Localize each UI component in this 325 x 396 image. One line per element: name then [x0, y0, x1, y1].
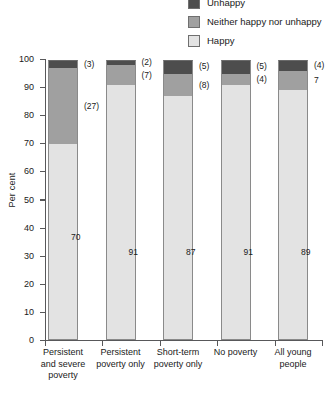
bar-segment-happy: [106, 85, 136, 341]
y-tick-label-10: 10: [0, 308, 34, 317]
bar-value-unhappy-3: (5): [199, 62, 209, 71]
x-tick-5: [322, 341, 323, 346]
x-category-line: poverty only: [146, 359, 210, 371]
x-category-line: Short-term: [146, 347, 210, 359]
y-tick-label-20: 20: [0, 280, 34, 289]
y-tick-50: [40, 199, 45, 200]
bar-segment-unhappy: [221, 60, 251, 74]
y-tick-100: [40, 59, 45, 60]
y-tick-label-40: 40: [0, 224, 34, 233]
x-category-line: and severe: [31, 359, 95, 371]
x-category-label-1: Persistentand severepoverty: [31, 347, 95, 382]
y-tick-40: [40, 228, 45, 229]
bar-segment-unhappy: [106, 60, 136, 66]
bar-segment-neither: [106, 65, 136, 85]
x-tick-0: [45, 341, 46, 346]
y-tick-label-30: 30: [0, 252, 34, 261]
x-tick-4: [275, 341, 276, 346]
bar-value-neither-4: (4): [257, 75, 267, 84]
bar-value-neither-5: 7: [314, 76, 319, 85]
y-axis-line: [45, 59, 46, 341]
x-category-line: Persistent: [89, 347, 153, 359]
x-tick-2: [160, 341, 161, 346]
bar-segment-neither: [278, 71, 308, 91]
bar-value-neither-1: (27): [84, 102, 99, 111]
stacked-bar-chart: Per cent 1009080706050403020100 70(3)(27…: [0, 0, 325, 396]
x-tick-1: [102, 341, 103, 346]
x-category-line: people: [261, 359, 325, 371]
x-category-label-4: No poverty: [204, 347, 268, 359]
y-tick-70: [40, 143, 45, 144]
x-category-line: poverty: [31, 370, 95, 382]
y-tick-label-60: 60: [0, 167, 34, 176]
bar-segment-happy: [278, 90, 308, 340]
bar-segment-happy: [221, 85, 251, 341]
bar-segment-neither: [48, 68, 78, 144]
bar-value-happy-1: 70: [71, 233, 80, 242]
y-tick-80: [40, 115, 45, 116]
y-tick-label-0: 0: [0, 336, 34, 345]
y-tick-10: [40, 312, 45, 313]
y-tick-label-50: 50: [0, 196, 34, 205]
bar-value-neither-2: (7): [142, 71, 152, 80]
x-category-line: Persistent: [31, 347, 95, 359]
x-category-label-3: Short-termpoverty only: [146, 347, 210, 370]
y-tick-20: [40, 284, 45, 285]
x-category-line: All young: [261, 347, 325, 359]
y-tick-label-100: 100: [0, 55, 34, 64]
bar-value-unhappy-4: (5): [257, 62, 267, 71]
y-tick-label-70: 70: [0, 139, 34, 148]
bar-segment-unhappy: [278, 60, 308, 71]
bar-value-happy-3: 87: [186, 248, 195, 257]
y-tick-label-90: 90: [0, 83, 34, 92]
bar-segment-happy: [48, 144, 78, 341]
y-tick-30: [40, 256, 45, 257]
bar-segment-happy: [163, 96, 193, 340]
bar-value-neither-3: (8): [199, 81, 209, 90]
bar-value-happy-2: 91: [129, 248, 138, 257]
x-tick-3: [217, 341, 218, 346]
bar-value-unhappy-1: (3): [84, 60, 94, 69]
bar-segment-neither: [163, 74, 193, 96]
x-category-line: poverty only: [89, 359, 153, 371]
bar-segment-neither: [221, 74, 251, 85]
x-category-label-5: All youngpeople: [261, 347, 325, 370]
bar-segment-unhappy: [163, 60, 193, 74]
bar-value-unhappy-2: (2): [142, 58, 152, 67]
x-category-label-2: Persistentpoverty only: [89, 347, 153, 370]
bar-value-happy-5: 89: [301, 248, 310, 257]
y-tick-60: [40, 171, 45, 172]
x-category-line: No poverty: [204, 347, 268, 359]
bar-segment-unhappy: [48, 60, 78, 68]
bar-value-unhappy-5: (4): [314, 61, 324, 70]
y-tick-label-80: 80: [0, 111, 34, 120]
bar-value-happy-4: 91: [244, 248, 253, 257]
y-tick-90: [40, 87, 45, 88]
